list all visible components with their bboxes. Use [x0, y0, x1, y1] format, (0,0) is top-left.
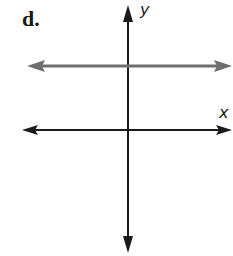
y-axis-up-arrow-icon [123, 5, 133, 22]
y-axis-down-arrow-icon [123, 236, 133, 253]
horizontal-line [27, 60, 232, 72]
coordinate-plane [0, 0, 233, 256]
